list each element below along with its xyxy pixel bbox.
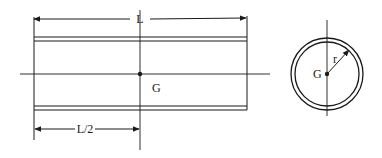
center-of-gravity-point xyxy=(138,72,142,76)
radius-label: r xyxy=(333,52,337,66)
radius-arrow xyxy=(327,50,349,74)
side-center-label: G xyxy=(152,81,161,95)
end-center-point xyxy=(325,72,329,76)
end-view xyxy=(291,20,363,116)
side-view xyxy=(20,10,270,150)
length-dimension-right xyxy=(150,18,246,19)
end-center-label: G xyxy=(313,67,322,81)
length-label: L xyxy=(136,12,143,26)
tube-diagram: L L/2 G G r xyxy=(0,0,382,158)
half-length-label: L/2 xyxy=(77,122,94,136)
